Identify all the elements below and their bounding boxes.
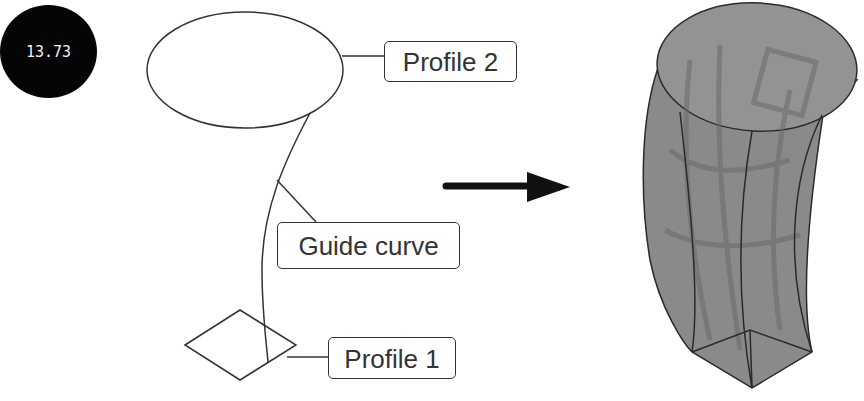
arrow-right-icon xyxy=(446,172,570,202)
profile1-label: Profile 1 xyxy=(328,337,456,379)
guide-curve-label: Guide curve xyxy=(277,222,460,269)
profile2-ellipse xyxy=(147,12,343,128)
guide-curve-leader xyxy=(277,180,316,222)
profile2-label: Profile 2 xyxy=(384,41,517,82)
swept-solid xyxy=(643,0,860,388)
profile1-diamond xyxy=(185,310,296,380)
